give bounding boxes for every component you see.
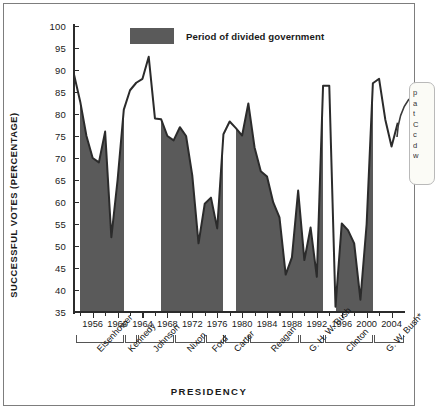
x-tick-mark	[230, 312, 231, 316]
y-tick-mark	[74, 224, 79, 225]
x-tick-label: 1956	[82, 319, 103, 329]
y-tick-label: 70	[40, 153, 66, 164]
y-tick-mark	[74, 202, 79, 203]
y-axis-line	[73, 24, 75, 314]
x-tick-mark	[142, 312, 143, 318]
y-tick-mark	[74, 246, 79, 247]
x-tick-mark	[93, 312, 94, 318]
x-tick-mark	[118, 312, 119, 318]
y-tick-label: 60	[40, 197, 66, 208]
y-tick-mark	[74, 158, 79, 159]
y-tick-label: 65	[40, 175, 66, 186]
y-tick-label: 45	[40, 263, 66, 274]
x-tick-mark	[105, 312, 106, 316]
x-tick-label: 1976	[207, 319, 228, 329]
x-tick-mark	[292, 312, 293, 318]
y-tick-label: 90	[40, 65, 66, 76]
callout-line: C	[413, 120, 434, 131]
y-tick-mark	[74, 70, 79, 71]
y-tick-label: 35	[40, 307, 66, 318]
x-tick-mark	[80, 312, 81, 316]
y-tick-label: 85	[40, 87, 66, 98]
x-tick-mark	[217, 312, 218, 318]
area-above-curve-mask	[74, 26, 404, 307]
y-tick-label: 75	[40, 131, 66, 142]
callout-line: p	[413, 88, 434, 99]
x-tick-mark	[329, 312, 330, 316]
callout-note: patCcdw	[409, 82, 435, 185]
y-tick-label: 100	[40, 21, 66, 32]
plot-area	[74, 26, 404, 312]
y-tick-label: 95	[40, 43, 66, 54]
x-tick-mark	[317, 312, 318, 318]
y-tick-mark	[74, 136, 79, 137]
y-tick-label: 55	[40, 219, 66, 230]
callout-line: c	[413, 130, 434, 141]
y-tick-mark	[74, 26, 79, 27]
y-tick-label: 40	[40, 285, 66, 296]
x-axis-label: PRESIDENCY	[4, 386, 414, 397]
x-tick-mark	[379, 312, 380, 316]
x-tick-mark	[205, 312, 206, 316]
x-tick-mark	[192, 312, 193, 318]
x-tick-mark	[255, 312, 256, 316]
x-tick-label: 1980	[232, 319, 253, 329]
callout-pointer-arrow	[396, 98, 410, 138]
callout-line: t	[413, 109, 434, 120]
y-tick-mark	[74, 48, 79, 49]
callout-line: w	[413, 151, 434, 162]
y-tick-mark	[74, 92, 79, 93]
x-tick-mark	[267, 312, 268, 318]
x-tick-mark	[155, 312, 156, 316]
x-tick-mark	[367, 312, 368, 318]
y-axis-label: SUCCESSFUL VOTES (PERCENTAGE)	[9, 80, 19, 330]
x-tick-label: 2000	[356, 319, 377, 329]
legend-swatch-divided-government	[130, 28, 174, 44]
figure-frame: 35404550556065707580859095100 SUCCESSFUL…	[3, 3, 415, 406]
x-tick-mark	[279, 312, 280, 316]
y-tick-mark	[74, 268, 79, 269]
x-tick-mark	[180, 312, 181, 316]
x-tick-mark	[392, 312, 393, 318]
successful-votes-curve	[74, 26, 404, 312]
presidency-label: G. W. Bush*	[384, 311, 425, 354]
y-tick-label: 50	[40, 241, 66, 252]
x-tick-mark	[242, 312, 243, 318]
y-tick-mark	[74, 290, 79, 291]
x-tick-label: 2004	[381, 319, 402, 329]
legend: Period of divided government	[130, 28, 324, 44]
callout-line: a	[413, 99, 434, 110]
y-tick-mark	[74, 312, 79, 313]
callout-line: d	[413, 141, 434, 152]
y-tick-label: 80	[40, 109, 66, 120]
x-tick-mark	[354, 312, 355, 316]
x-tick-label: 1984	[257, 319, 278, 329]
x-tick-mark	[304, 312, 305, 316]
x-tick-label: 1972	[182, 319, 203, 329]
y-tick-mark	[74, 114, 79, 115]
legend-label-divided-government: Period of divided government	[186, 31, 324, 42]
y-tick-mark	[74, 180, 79, 181]
x-tick-mark	[167, 312, 168, 318]
